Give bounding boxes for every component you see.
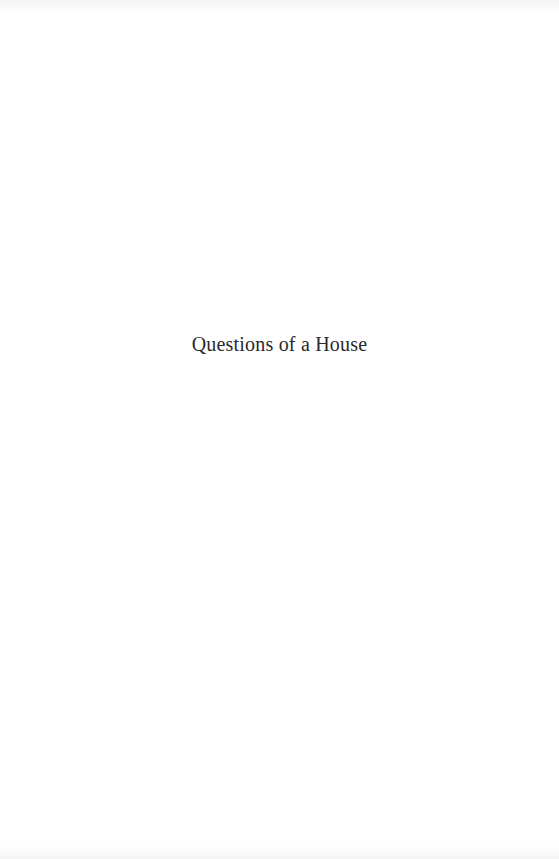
page-edge-bottom — [0, 845, 559, 859]
page-edge-top — [0, 0, 559, 14]
book-page: Questions of a House — [0, 0, 559, 859]
half-title: Questions of a House — [0, 332, 559, 356]
